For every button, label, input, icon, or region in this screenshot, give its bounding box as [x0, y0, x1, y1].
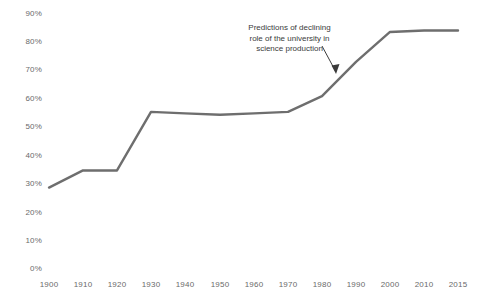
x-tick-label: 1930 — [142, 281, 161, 289]
x-tick-label: 2000 — [381, 281, 400, 289]
x-tick-label: 1970 — [279, 281, 298, 289]
line-chart: 90% 80% 70% 60% 50% 40% 30% 20% 10% 0% P… — [0, 0, 477, 300]
x-tick-label: 2015 — [449, 281, 468, 289]
x-tick-label: 1990 — [347, 281, 366, 289]
x-tick-label: 1940 — [176, 281, 195, 289]
x-tick-label: 1920 — [108, 281, 127, 289]
x-tick-label: 1980 — [313, 281, 332, 289]
x-tick-label: 2010 — [415, 281, 434, 289]
x-tick-label: 1950 — [211, 281, 230, 289]
x-tick-label: 1960 — [245, 281, 264, 289]
x-tick-label: 1900 — [40, 281, 59, 289]
x-axis: 1900 1910 1920 1930 1940 1950 1960 1970 … — [0, 0, 477, 300]
x-tick-label: 1910 — [74, 281, 93, 289]
